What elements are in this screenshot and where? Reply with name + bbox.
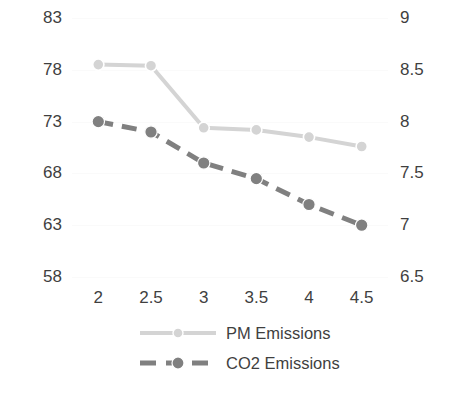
legend-label-pm-emissions: PM Emissions [226,324,331,343]
legend-key-co2-emissions [140,354,216,372]
x-axis-tick-label: 3 [199,289,208,306]
legend-swatch-co2-icon [140,354,216,372]
chart-container: 837873686358 98.587.576.5 22.533.544.5 P… [0,0,461,398]
x-axis-tick-label: 4 [304,289,313,306]
legend-key-pm-emissions [140,324,216,342]
legend-swatch-pm-icon [140,324,216,342]
chart-legend: PM Emissions CO2 Emissions [0,318,461,378]
x-axis-tick-label: 4.5 [350,289,374,306]
legend-item-pm-emissions[interactable]: PM Emissions [0,318,461,348]
x-axis-tick-label: 2.5 [139,289,163,306]
x-axis-tick-label: 3.5 [245,289,269,306]
legend-item-co2-emissions[interactable]: CO2 Emissions [0,348,461,378]
x-axis-tick-label: 2 [94,289,103,306]
legend-label-co2-emissions: CO2 Emissions [226,354,340,373]
